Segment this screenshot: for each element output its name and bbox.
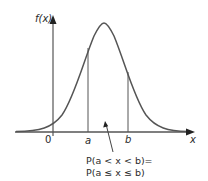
bell-curve bbox=[16, 23, 188, 132]
normal-distribution-diagram: f(x) 0 a b x P(a < x < b)= P(a ≤ x ≤ b) bbox=[0, 0, 208, 181]
probability-annotation-line1: P(a < x < b)= bbox=[86, 155, 153, 166]
annotation-arrow-icon bbox=[103, 121, 108, 128]
y-axis-label: f(x) bbox=[35, 13, 52, 24]
annotation-pointer bbox=[106, 124, 113, 152]
probability-annotation-line2: P(a ≤ x ≤ b) bbox=[86, 167, 145, 178]
a-label: a bbox=[85, 135, 91, 146]
origin-label: 0 bbox=[45, 134, 51, 145]
x-axis-label: x bbox=[189, 134, 196, 145]
b-label: b bbox=[125, 134, 131, 145]
